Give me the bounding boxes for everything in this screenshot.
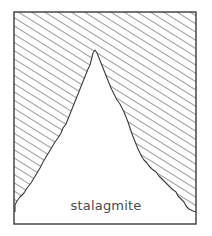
cave-rock-hatching [14, 12, 196, 224]
stalagmite-label: stalagmite [0, 198, 212, 213]
